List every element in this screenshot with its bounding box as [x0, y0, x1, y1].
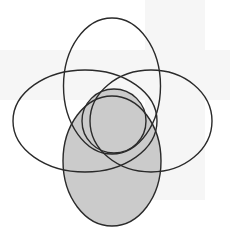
venn-diagram [0, 0, 230, 243]
